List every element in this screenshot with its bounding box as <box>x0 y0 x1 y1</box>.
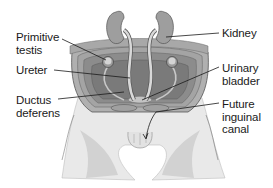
label-ureter: Ureter <box>16 64 47 77</box>
label-future-inguinal-canal: Future inguinal canal <box>222 98 261 136</box>
label-urinary-bladder: Urinary bladder <box>222 62 260 87</box>
label-ductus-deferens: Ductus deferens <box>16 94 60 119</box>
label-primitive-testis: Primitive testis <box>16 31 59 56</box>
label-kidney: Kidney <box>222 27 257 40</box>
